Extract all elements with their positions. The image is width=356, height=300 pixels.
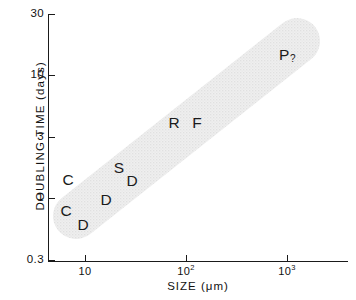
y-axis-title: DOUBLING TIME (days): [35, 21, 47, 251]
data-point-P-label: P: [279, 46, 289, 63]
y-tick-1: [48, 198, 55, 199]
x-axis-title: SIZE (μm): [48, 281, 348, 293]
x-tick-1000: [287, 255, 288, 262]
data-point-P: P?: [279, 47, 295, 63]
data-point-D-3-label: D: [126, 172, 137, 189]
data-point-F-label: F: [192, 114, 201, 131]
data-point-S: S: [114, 160, 124, 176]
x-tick-label-100-exponent: 2: [190, 263, 194, 272]
data-point-D-2-label: D: [100, 191, 111, 208]
y-tick-label-0.3: 0.3: [27, 254, 44, 266]
data-point-R-label: R: [168, 114, 179, 131]
x-tick-10: [85, 255, 86, 262]
data-point-D-3: D: [126, 173, 137, 189]
x-tick-label-10: 10: [79, 266, 92, 277]
data-point-P-uncertainty-marker: ?: [290, 53, 296, 64]
y-tick-3: [48, 137, 55, 138]
shaded-trend-band: [0, 0, 356, 300]
x-axis-line: [48, 261, 348, 262]
x-tick-label-1000-mantissa: 10: [278, 265, 291, 277]
x-tick-label-1000-exponent: 3: [291, 263, 295, 272]
y-tick-label-30: 30: [30, 8, 44, 20]
chart-figure: 30 10 3 1 0.3 10 102 103 DOUBLING TIME (…: [0, 0, 356, 300]
data-point-D-1-label: D: [77, 216, 88, 233]
x-tick-label-1000: 103: [278, 266, 295, 277]
data-point-F: F: [192, 115, 201, 131]
data-point-C-1: C: [62, 172, 73, 188]
data-point-C-2: C: [60, 203, 71, 219]
x-tick-label-100: 102: [177, 266, 194, 277]
y-tick-0.3: [48, 260, 55, 261]
data-point-C-2-label: C: [60, 202, 71, 219]
x-tick-label-100-mantissa: 10: [177, 265, 190, 277]
data-point-R: R: [168, 115, 179, 131]
x-tick-label-10-mantissa: 10: [79, 265, 92, 277]
y-tick-30: [48, 14, 55, 15]
data-point-S-label: S: [114, 159, 124, 176]
y-tick-10: [48, 75, 55, 76]
x-tick-100: [186, 255, 187, 262]
data-point-C-1-label: C: [62, 171, 73, 188]
data-point-D-2: D: [100, 192, 111, 208]
data-point-D-1: D: [77, 217, 88, 233]
